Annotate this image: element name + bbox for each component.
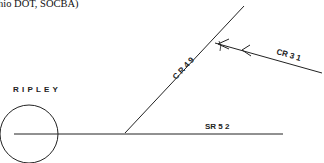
sr52-label: SR 5 2 [205, 122, 230, 131]
cr49-label: C R 4 9 [171, 55, 196, 81]
map-canvas: RIPLEY SR 5 2 C R 4 9 CR 3 1 [0, 0, 324, 163]
road-map-diagram: hio DOT, SOCBA) RIPLEY SR 5 2 C R 4 9 CR… [0, 0, 324, 163]
source-caption: hio DOT, SOCBA) [0, 0, 79, 9]
town-label-ripley: RIPLEY [13, 85, 61, 94]
cr31-road-line [215, 43, 322, 73]
direction-arrow-icon [242, 45, 251, 56]
